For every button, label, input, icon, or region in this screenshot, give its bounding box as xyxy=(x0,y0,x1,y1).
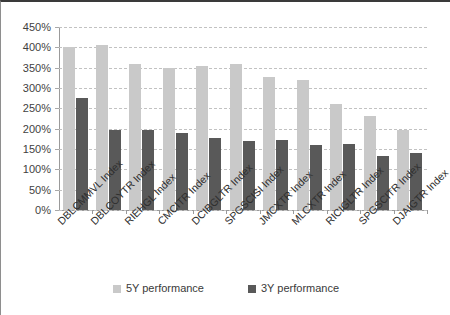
y-tick-label: 50% xyxy=(29,185,51,196)
bar-5y xyxy=(63,47,75,210)
legend-swatch-3y xyxy=(248,285,256,293)
y-tick-label: 0% xyxy=(35,205,51,216)
y-tick-label: 100% xyxy=(23,164,51,175)
y-tick-label: 200% xyxy=(23,124,51,135)
chart-legend: 5Y performance3Y performance xyxy=(1,283,450,294)
bar-5y xyxy=(364,116,376,210)
bar-5y xyxy=(330,104,342,210)
legend-label: 3Y performance xyxy=(261,283,339,294)
y-tick-label: 450% xyxy=(23,22,51,33)
legend-swatch-5y xyxy=(113,285,121,293)
y-tick-mark xyxy=(55,210,59,211)
x-tick-mark xyxy=(427,210,428,214)
legend-entry: 5Y performance xyxy=(113,283,204,294)
legend-label: 5Y performance xyxy=(126,283,204,294)
y-tick-label: 350% xyxy=(23,63,51,74)
bar-group xyxy=(63,27,89,210)
y-tick-label: 250% xyxy=(23,103,51,114)
bar-chart: 450%400%350%300%250%200%150%100%50%0% DB… xyxy=(0,0,450,315)
y-tick-label: 150% xyxy=(23,144,51,155)
y-tick-label: 300% xyxy=(23,83,51,94)
y-tick-label: 400% xyxy=(23,42,51,53)
legend-entry: 3Y performance xyxy=(248,283,339,294)
